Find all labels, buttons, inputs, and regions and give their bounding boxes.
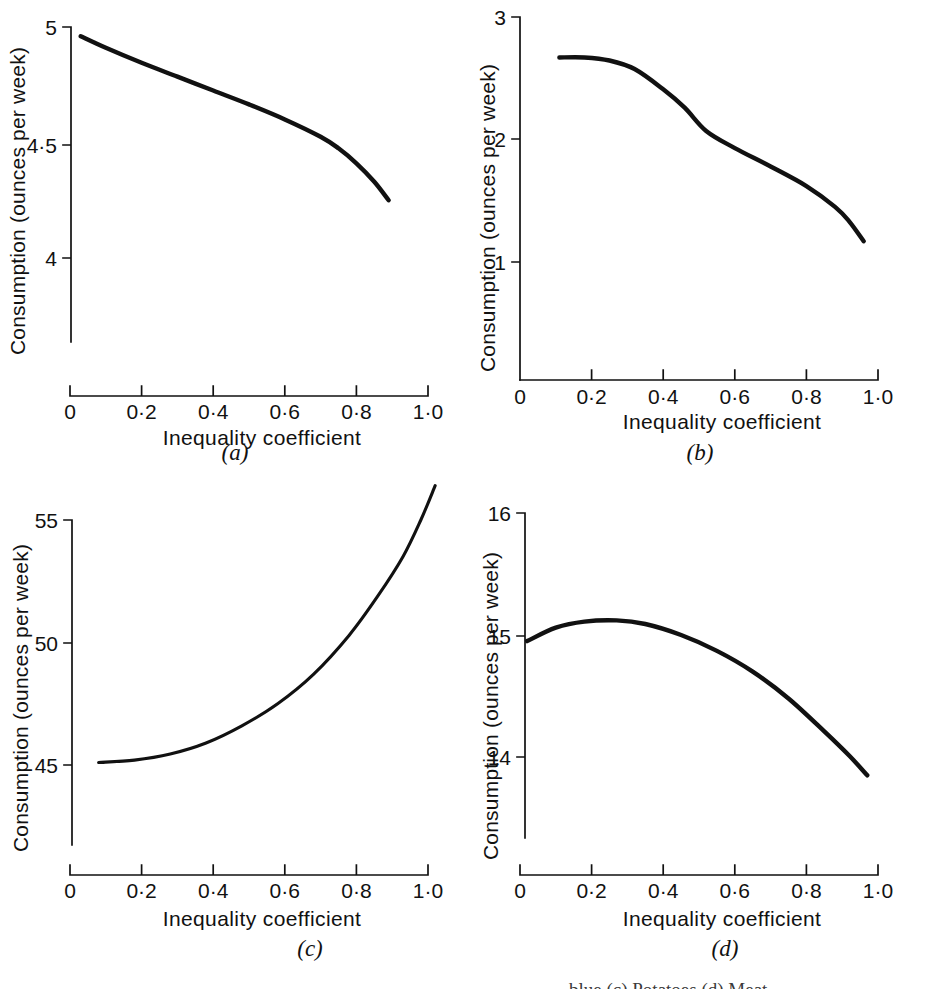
panel-d-x-tick-1: 0·2 bbox=[576, 879, 606, 902]
panel-c-x-title-svg: Inequality coefficient bbox=[0, 905, 470, 935]
panel-a-data-curve bbox=[81, 36, 389, 200]
panel-c-x-axis-title-wrap: Inequality coefficient bbox=[0, 905, 470, 939]
panel-b-x-tick-5: 1·0 bbox=[863, 385, 893, 408]
panel-d-data-curve bbox=[527, 620, 867, 775]
panel-b-x-axis bbox=[520, 370, 878, 380]
panel-b-x-tick-4: 0·8 bbox=[791, 385, 821, 408]
panel-a-x-axis-label: Inequality coefficient bbox=[163, 426, 362, 449]
panel-c-data-curve bbox=[99, 486, 436, 763]
panel-c-x-tick-1: 0·2 bbox=[126, 879, 156, 902]
panel-b-y-tick-2: 1 bbox=[494, 251, 506, 274]
panel-b-x-axis-label: Inequality coefficient bbox=[623, 410, 822, 433]
panel-c: Consumption (ounces per week) 55 50 45 0… bbox=[0, 470, 470, 930]
panel-c-caption: (c) bbox=[250, 936, 370, 962]
panel-d-caption: (d) bbox=[665, 936, 785, 962]
panel-d-x-axis bbox=[520, 865, 878, 875]
panel-b: Consumption (ounces per week) 3 2 1 0 0·… bbox=[470, 0, 937, 430]
panel-c-x-tick-5: 1·0 bbox=[413, 879, 443, 902]
panel-a-y-axis-label: Consumption (ounces per week) bbox=[6, 47, 29, 355]
panel-d-plot: Consumption (ounces per week) 16 15 14 0… bbox=[470, 470, 937, 930]
panel-a-x-tick-4: 0·8 bbox=[341, 400, 371, 423]
panel-d-x-axis-label: Inequality coefficient bbox=[623, 907, 822, 930]
panel-c-y-axis bbox=[64, 520, 72, 845]
panel-d-x-title-svg: Inequality coefficient bbox=[470, 905, 937, 935]
panel-a-y-tick-2: 4 bbox=[45, 247, 57, 270]
panel-a-y-axis bbox=[63, 27, 71, 342]
panel-c-y-tick-1: 50 bbox=[35, 632, 58, 655]
panel-c-x-axis-label: Inequality coefficient bbox=[163, 907, 362, 930]
panel-c-x-tick-4: 0·8 bbox=[341, 879, 371, 902]
panel-a-x-axis-title-wrap: Inequality coefficient bbox=[0, 424, 470, 458]
panel-b-y-axis-label: Consumption (ounces per week) bbox=[476, 64, 499, 372]
figure-multi-panel-consumption: Consumption (ounces per week) 5 4·5 4 0 … bbox=[0, 0, 937, 989]
panel-a-x-tick-0: 0 bbox=[64, 400, 76, 423]
panel-a-x-title-svg: Inequality coefficient bbox=[0, 424, 470, 454]
panel-b-caption: (b) bbox=[640, 440, 760, 466]
panel-a-y-tick-1: 4·5 bbox=[27, 134, 57, 157]
panel-a-x-tick-3: 0·6 bbox=[270, 400, 300, 423]
panel-d: Consumption (ounces per week) 16 15 14 0… bbox=[470, 470, 937, 930]
panel-c-x-tick-2: 0·4 bbox=[198, 879, 229, 902]
panel-d-y-tick-0: 16 bbox=[488, 502, 511, 525]
panel-a: Consumption (ounces per week) 5 4·5 4 0 … bbox=[0, 0, 470, 430]
panel-a-plot: Consumption (ounces per week) 5 4·5 4 0 … bbox=[0, 0, 470, 430]
panel-d-x-tick-4: 0·8 bbox=[791, 879, 821, 902]
panel-d-x-tick-5: 1·0 bbox=[863, 879, 893, 902]
panel-a-x-tick-5: 1·0 bbox=[413, 400, 443, 423]
panel-b-x-title-svg: Inequality coefficient bbox=[470, 408, 937, 438]
panel-a-x-tick-2: 0·4 bbox=[198, 400, 229, 423]
panel-b-x-tick-3: 0·6 bbox=[720, 385, 750, 408]
panel-a-x-axis bbox=[70, 386, 428, 396]
panel-d-y-axis bbox=[517, 513, 525, 838]
panel-b-x-tick-1: 0·2 bbox=[576, 385, 606, 408]
panel-d-y-tick-2: 14 bbox=[488, 746, 512, 769]
panel-d-x-axis-title-wrap: Inequality coefficient bbox=[470, 905, 937, 939]
panel-c-x-tick-0: 0 bbox=[64, 879, 76, 902]
panel-a-x-tick-1: 0·2 bbox=[126, 400, 156, 423]
panel-d-x-tick-0: 0 bbox=[514, 879, 526, 902]
panel-c-plot: Consumption (ounces per week) 55 50 45 0… bbox=[0, 470, 470, 930]
panel-c-x-axis bbox=[70, 865, 428, 875]
panel-b-y-tick-1: 2 bbox=[494, 128, 506, 151]
panel-b-data-curve bbox=[559, 57, 863, 241]
panel-d-x-tick-2: 0·4 bbox=[648, 879, 679, 902]
panel-b-y-axis bbox=[512, 17, 520, 380]
panel-d-x-tick-3: 0·6 bbox=[720, 879, 750, 902]
panel-d-y-axis-label: Consumption (ounces per week) bbox=[479, 552, 502, 860]
panel-c-y-tick-2: 45 bbox=[35, 754, 58, 777]
panel-a-y-tick-0: 5 bbox=[45, 16, 57, 39]
panel-b-y-tick-0: 3 bbox=[494, 6, 506, 29]
panel-b-x-tick-2: 0·4 bbox=[648, 385, 679, 408]
panel-b-x-tick-0: 0 bbox=[514, 385, 526, 408]
panel-b-plot: Consumption (ounces per week) 3 2 1 0 0·… bbox=[470, 0, 937, 430]
panel-c-x-tick-3: 0·6 bbox=[270, 879, 300, 902]
panel-d-y-tick-1: 15 bbox=[488, 625, 511, 648]
panel-c-y-tick-0: 55 bbox=[35, 509, 58, 532]
figure-bottom-caption: …blue (c) Potatoes (d) Meat bbox=[550, 979, 937, 989]
panel-b-x-axis-title-wrap: Inequality coefficient bbox=[470, 408, 937, 442]
panel-c-y-axis-label: Consumption (ounces per week) bbox=[9, 544, 32, 852]
